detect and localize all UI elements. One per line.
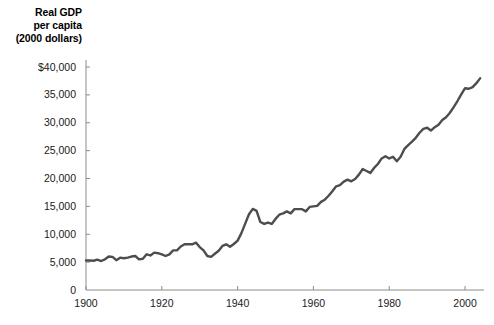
y-tick-label: 25,000	[0, 145, 76, 156]
y-tick-label: $40,000	[0, 62, 76, 73]
x-tick-label: 1960	[283, 298, 343, 309]
chart-container: Real GDP per capita (2000 dollars) 05,00…	[0, 0, 494, 325]
y-axis-ticks	[86, 67, 90, 262]
x-tick-label: 1940	[208, 298, 268, 309]
y-tick-label: 35,000	[0, 89, 76, 100]
y-tick-label: 0	[0, 285, 76, 296]
y-tick-label: 20,000	[0, 173, 76, 184]
y-tick-label: 5,000	[0, 257, 76, 268]
x-tick-label: 1900	[56, 298, 116, 309]
data-series-line	[86, 78, 480, 261]
plot-area	[0, 0, 494, 325]
x-tick-label: 2000	[435, 298, 494, 309]
y-tick-label: 30,000	[0, 117, 76, 128]
x-axis-ticks	[86, 286, 465, 290]
y-tick-label: 15,000	[0, 201, 76, 212]
x-tick-label: 1980	[359, 298, 419, 309]
x-tick-label: 1920	[132, 298, 192, 309]
y-tick-label: 10,000	[0, 229, 76, 240]
